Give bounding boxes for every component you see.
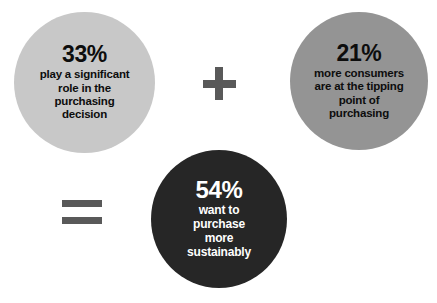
stat-circle-role: 33% play a significant role in the purch… [14, 12, 155, 153]
stat-caption-line: are at the tipping [314, 80, 404, 93]
stat-caption-line: purchasing [314, 107, 404, 120]
stat-caption-line: purchase [187, 218, 251, 232]
stat-caption-line: decision [40, 108, 130, 121]
stat-circle-tipping: 21% more consumers are at the tipping po… [290, 12, 428, 150]
stat-caption-line: sustainably [187, 246, 251, 260]
plus-operator-icon [203, 67, 236, 100]
plus-vertical-bar [215, 67, 223, 100]
stat-caption-line: purchasing [40, 95, 130, 108]
stat-caption-line: role in the [40, 82, 130, 95]
stat-caption-sustainably: want to purchase more sustainably [187, 204, 251, 260]
stat-percent-sustainably: 54% [196, 178, 243, 202]
infographic-canvas: 33% play a significant role in the purch… [0, 0, 437, 303]
stat-circle-sustainably: 54% want to purchase more sustainably [151, 150, 287, 288]
stat-caption-role: play a significant role in the purchasin… [40, 68, 130, 121]
stat-caption-line: point of [314, 94, 404, 107]
equals-bottom-bar [62, 217, 102, 224]
stat-caption-line: more consumers [314, 67, 404, 80]
equals-operator-icon [62, 200, 102, 226]
stat-caption-tipping: more consumers are at the tipping point … [314, 67, 404, 120]
stat-percent-tipping: 21% [337, 42, 382, 65]
equals-top-bar [62, 200, 102, 207]
stat-percent-role: 33% [62, 43, 107, 66]
stat-caption-line: more [187, 232, 251, 246]
stat-caption-line: play a significant [40, 68, 130, 81]
stat-caption-line: want to [187, 204, 251, 218]
